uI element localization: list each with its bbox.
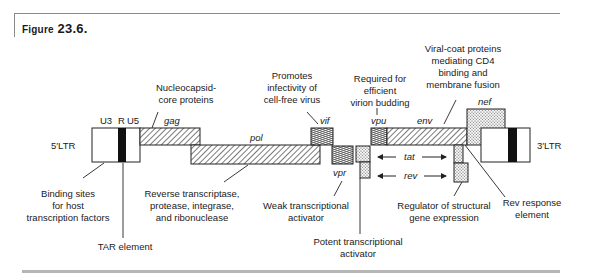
annotation-tat: Potent transcriptional activator — [313, 236, 402, 259]
gene-vpr-label: vpr — [333, 167, 347, 178]
annotation-rev-line: Regulator of structural — [397, 200, 490, 211]
annotation-rre: Rev response element — [503, 197, 562, 220]
annotation-rre-line: element — [515, 209, 549, 220]
annotation-vpr-line: activator — [288, 212, 324, 223]
ltr-3prime-label: 3′LTR — [537, 140, 561, 151]
annotation-env-line: membrane fusion — [426, 79, 499, 90]
gene-pol — [191, 145, 320, 164]
gene-rev-label: rev — [404, 170, 418, 181]
annotation-gag-line: Nucleocapsid- — [156, 82, 216, 93]
gene-nef-label: nef — [478, 96, 493, 107]
annotation-rre-line: Rev response — [503, 197, 562, 208]
annotation-env: Viral-coat proteins mediating CD4 bindin… — [425, 43, 502, 90]
annotation-tar: TAR element — [98, 241, 153, 252]
gene-vif — [311, 128, 333, 145]
gene-vpu-label: vpu — [371, 115, 387, 126]
gene-gag — [140, 128, 200, 145]
annotation-pol-line: and ribonuclease — [156, 212, 228, 223]
annotation-gag-line: core proteins — [159, 94, 214, 105]
gene-pol-label: pol — [249, 132, 264, 143]
annotation-vpr-line: Weak transcriptional — [263, 200, 349, 211]
annotation-rev-line: gene expression — [409, 212, 479, 223]
ltr-3prime — [481, 128, 530, 162]
annotation-env-line: Viral-coat proteins — [425, 43, 502, 54]
annotation-ltr-line: transcription factors — [27, 212, 110, 223]
annotation-env-line: binding and — [438, 67, 487, 78]
gene-tat-exon1 — [356, 146, 370, 162]
annotation-tat-line: activator — [340, 248, 376, 259]
annotation-vif-line: cell-free virus — [264, 94, 321, 105]
gene-env-label: env — [417, 115, 434, 126]
gene-vpr — [332, 146, 353, 164]
annotation-pol: Reverse transcriptase, protease, integra… — [144, 188, 239, 223]
annotation-env-line: mediating CD4 — [432, 55, 495, 66]
annotation-rev: Regulator of structural gene expression — [397, 200, 490, 223]
annotation-vpr: Weak transcriptional activator — [263, 200, 349, 223]
annotation-vpu-line: efficient — [364, 85, 397, 96]
annotation-ltr-line: for host — [52, 200, 84, 211]
gene-vpu — [371, 128, 387, 145]
gene-vif-label: vif — [320, 115, 331, 126]
ltr-5prime — [92, 128, 140, 162]
hiv-genome-diagram: 5′LTR U3 R U5 gag pol vif vpr vpu env ne… — [0, 0, 593, 276]
annotation-gag: Nucleocapsid- core proteins — [156, 82, 216, 105]
gene-rev-exon1 — [360, 162, 370, 178]
annotation-vif: Promotes infectivity of cell-free virus — [264, 70, 321, 105]
gene-tat-label: tat — [404, 151, 415, 162]
ltr-5prime-label: 5′LTR — [51, 140, 75, 151]
gene-env — [387, 128, 467, 145]
gene-gag-label: gag — [164, 115, 181, 126]
ltr-segment-r: R — [118, 115, 125, 126]
annotation-vif-line: infectivity of — [267, 82, 317, 93]
ltr-segment-u5: U5 — [127, 115, 139, 126]
ltr-segment-u3: U3 — [100, 115, 112, 126]
annotation-tat-line: Potent transcriptional — [313, 236, 402, 247]
annotation-ltr-line: Binding sites — [41, 188, 95, 199]
annotation-pol-line: protease, integrase, — [150, 200, 234, 211]
annotation-vpu-line: virion budding — [350, 97, 409, 108]
annotation-vpu: Required for efficient virion budding — [350, 73, 409, 108]
annotation-vpu-line: Required for — [354, 73, 406, 84]
gene-tat-exon2 — [454, 145, 463, 163]
gene-rev-exon2 — [454, 163, 468, 182]
annotation-vif-line: Promotes — [272, 70, 313, 81]
annotation-ltr: Binding sites for host transcription fac… — [27, 188, 110, 223]
tar-region — [118, 128, 126, 162]
annotation-pol-line: Reverse transcriptase, — [144, 188, 239, 199]
